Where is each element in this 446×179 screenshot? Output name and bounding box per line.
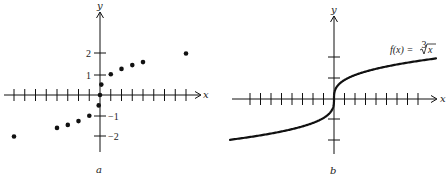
y-tick-label-2: 2 [86,48,91,59]
data-point [119,67,124,72]
data-point [96,103,101,108]
y-tick-label-minus-1: −1 [108,111,119,122]
data-point [109,72,114,77]
y-axis-label: y [330,4,337,15]
y-tick-label-minus-2: −2 [108,131,119,142]
panel-b-caption: b [330,165,336,176]
y-tick-label-1: 1 [86,70,91,81]
data-point [12,134,17,139]
data-point [87,114,92,119]
data-point [184,51,189,56]
panel-a-caption: a [96,164,102,175]
data-point [76,119,81,124]
panel-b-curve: x y f(x) = 3 x b [230,4,446,176]
function-label: f(x) = [390,44,413,56]
y-axis-label: y [96,0,103,11]
data-point [98,93,103,98]
data-point [141,60,146,65]
function-label-prefix: f(x) = [390,44,413,56]
data-point [130,63,135,68]
x-axis-label: x [203,89,209,100]
data-point [99,82,104,87]
function-annotation: f(x) = 3 x [390,39,436,56]
data-point [55,126,60,131]
radicand: x [427,44,433,55]
x-axis-label: x [440,93,446,104]
data-point [66,123,71,128]
figure: x y 2 1 −1 −2 a x y f(x) = 3 [0,0,446,179]
panel-a-scatter: x y 2 1 −1 −2 a [4,0,209,175]
